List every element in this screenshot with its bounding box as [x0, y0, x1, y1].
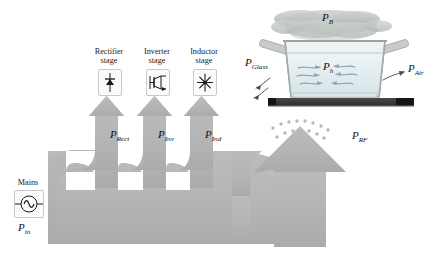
p-h-symbol: P	[323, 60, 330, 72]
inverter-caption-line2: stage	[149, 56, 166, 65]
diode-icon	[99, 70, 121, 95]
mains-source-icon-box[interactable]	[14, 190, 44, 218]
label-p-b: PB	[322, 12, 333, 26]
ac-source-icon	[15, 191, 43, 217]
p-air-symbol: P	[408, 62, 415, 74]
loss-arrow-air	[383, 71, 405, 80]
p-glass-subscript: Glass	[252, 63, 268, 71]
p-air-subscript: Air	[415, 69, 424, 77]
figure-canvas: Rectifier stage Inverter stage Inductor …	[0, 0, 440, 259]
inverter-stage-icon-box[interactable]	[146, 69, 170, 96]
mains-caption-text: Mains	[18, 178, 38, 187]
p-rect-subscript: Rect	[117, 135, 130, 143]
loss-arrow-glass	[254, 78, 270, 100]
label-p-rect: PRect	[110, 129, 129, 143]
inductor-stage-icon-box[interactable]	[193, 69, 217, 96]
label-p-in: Pin	[18, 222, 30, 236]
p-glass-symbol: P	[245, 56, 252, 68]
p-rect-symbol: P	[110, 128, 117, 140]
coil-starburst-icon	[194, 70, 216, 95]
p-h-subscript: h	[330, 67, 334, 75]
label-p-rf: PRF	[352, 130, 367, 144]
rectifier-stage-icon-box[interactable]	[98, 69, 122, 96]
p-ind-symbol: P	[205, 128, 212, 140]
inverter-caption-line1: Inverter	[144, 47, 170, 56]
p-in-subscript: in	[25, 228, 31, 236]
rectifier-caption-line2: stage	[101, 56, 118, 65]
mains-caption: Mains	[8, 178, 48, 187]
label-p-glass: PGlass	[245, 57, 268, 71]
p-rf-symbol: P	[352, 129, 359, 141]
p-b-symbol: P	[322, 11, 329, 23]
rectifier-caption-line1: Rectifier	[95, 47, 124, 56]
label-p-h: Ph	[323, 61, 333, 75]
p-ind-subscript: Ind	[212, 135, 221, 143]
label-p-air: PAir	[408, 63, 424, 77]
transistor-icon	[147, 70, 169, 95]
inductor-caption-line1: Inductor	[190, 47, 218, 56]
p-inv-subscript: Inv	[165, 135, 174, 143]
cooktop-plate	[268, 98, 414, 107]
inductor-caption-line2: stage	[196, 56, 213, 65]
p-rf-subscript: RF	[359, 136, 368, 144]
p-b-subscript: B	[329, 18, 333, 26]
inductor-stage-caption: Inductor stage	[174, 47, 234, 65]
label-p-inv: PInv	[158, 129, 174, 143]
p-inv-symbol: P	[158, 128, 165, 140]
label-p-ind: PInd	[205, 129, 221, 143]
p-in-symbol: P	[18, 221, 25, 233]
pot-body	[283, 41, 387, 97]
